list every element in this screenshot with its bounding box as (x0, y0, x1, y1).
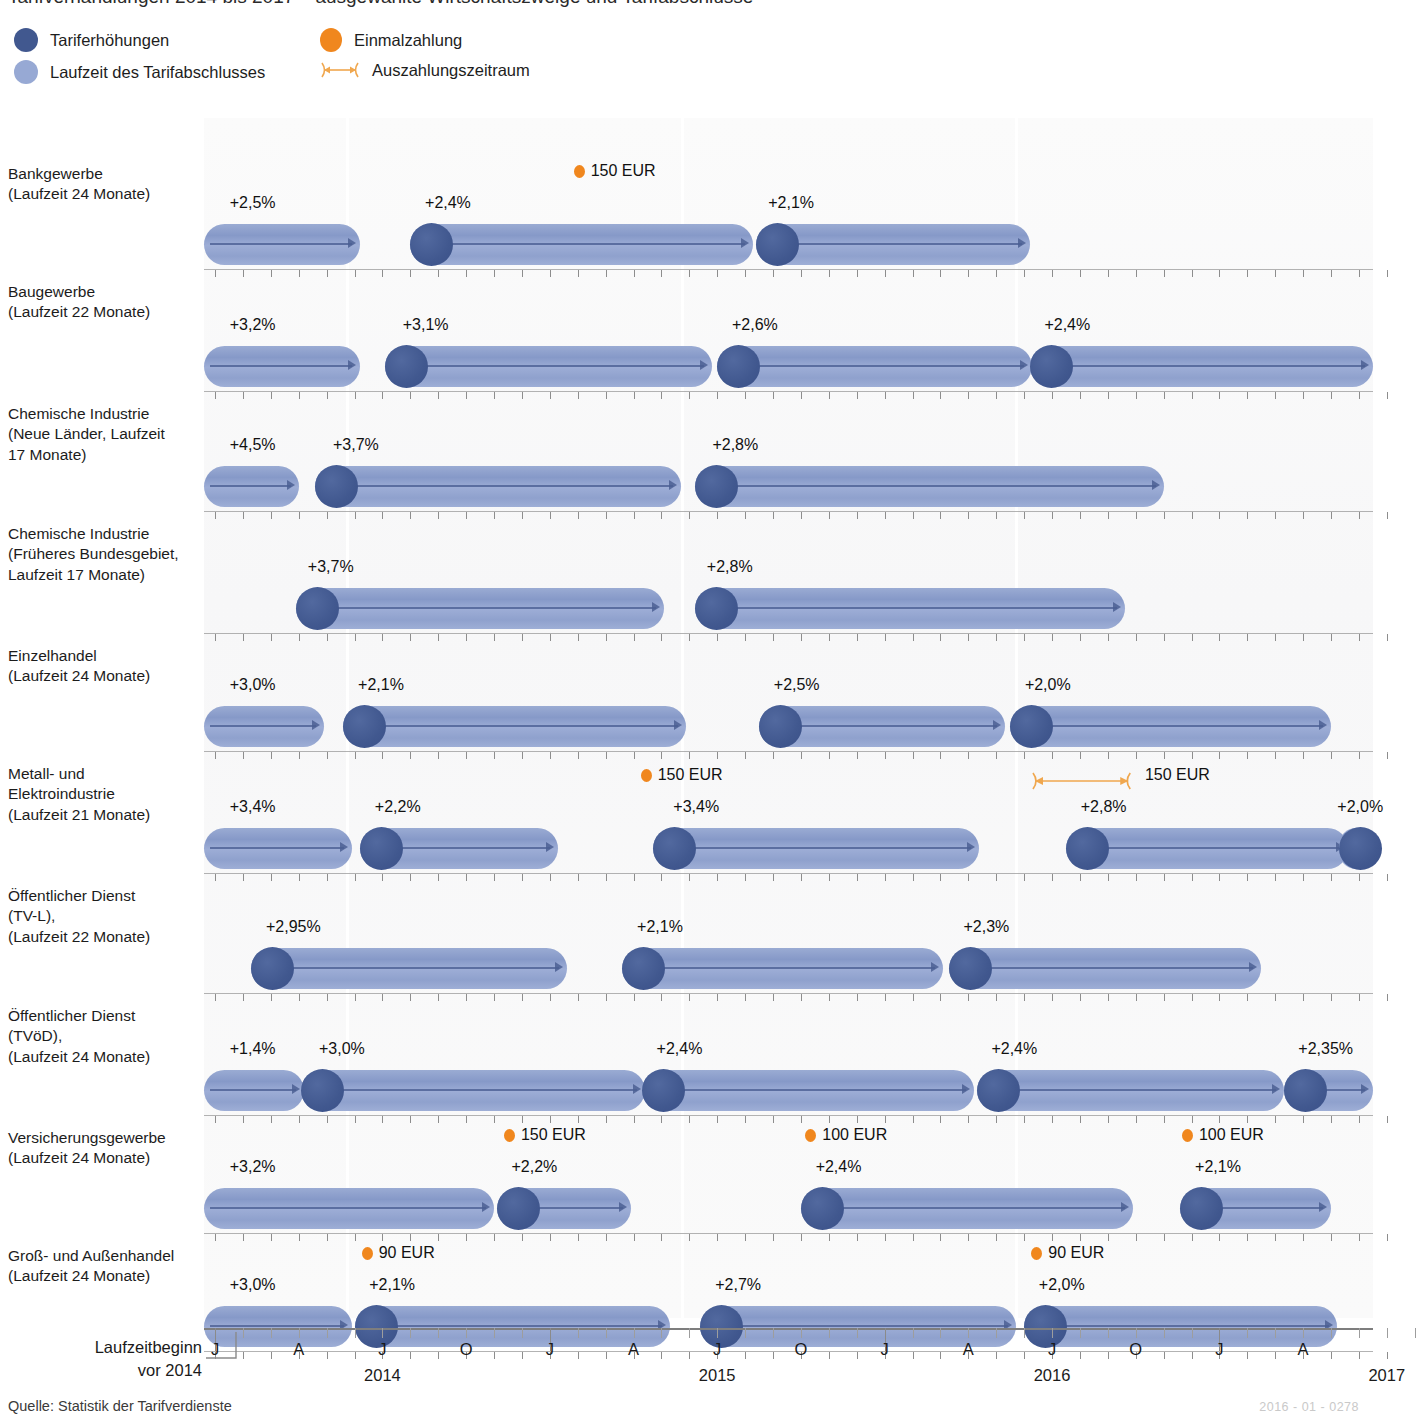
duration-bar[interactable] (717, 346, 1032, 387)
axis-month-tick (299, 1328, 300, 1338)
tarif-increase-marker[interactable] (977, 1069, 1020, 1112)
axis-month-tick (996, 1328, 997, 1338)
axis-line (204, 1328, 1373, 1330)
bar-spine (307, 1089, 636, 1091)
duration-bar[interactable] (204, 706, 324, 747)
tarif-increase-marker[interactable] (642, 1069, 685, 1112)
duration-bar[interactable] (642, 1070, 974, 1111)
row-label-line: Einzelhandel (8, 646, 203, 666)
tarif-increase-marker[interactable] (695, 465, 738, 508)
dark-blue-dot-icon (14, 28, 38, 52)
tarif-increase-marker[interactable] (1284, 1069, 1327, 1112)
bar-end-arrow-icon (482, 1202, 490, 1212)
chart-row-oed-tvoed[interactable]: Öffentlicher Dienst(TVöD),(Laufzeit 24 M… (0, 1000, 1373, 1122)
axis-month-tick (438, 1328, 439, 1338)
increase-percent-label: +2,4% (1044, 316, 1090, 334)
chart-row-chemie-frueheres-bundesgebiet[interactable]: Chemische Industrie(Früheres Bundesgebie… (0, 518, 1373, 640)
axis-month-tick (857, 1328, 858, 1338)
increase-percent-label: +2,8% (712, 436, 758, 454)
axis-month-tick (1387, 1328, 1388, 1338)
increase-percent-label: +2,4% (816, 1158, 862, 1176)
tarif-increase-marker[interactable] (717, 345, 760, 388)
duration-bar[interactable] (977, 1070, 1284, 1111)
bar-end-arrow-icon (674, 720, 682, 730)
duration-bar[interactable] (695, 466, 1164, 507)
tarif-increase-marker[interactable] (410, 223, 453, 266)
duration-bar[interactable] (695, 588, 1125, 629)
row-label-line: (Laufzeit 24 Monate) (8, 184, 203, 204)
increase-percent-label: +3,2% (230, 1158, 276, 1176)
one-time-payment-label: 90 EUR (1031, 1244, 1104, 1262)
row-label-oed-tvl: Öffentlicher Dienst(TV-L),(Laufzeit 22 M… (8, 886, 203, 947)
duration-bar[interactable] (653, 828, 979, 869)
bar-spine (701, 607, 1117, 609)
one-time-payment-label: 150 EUR (1145, 766, 1210, 784)
duration-bar[interactable] (204, 466, 299, 507)
tarif-increase-marker[interactable] (695, 587, 738, 630)
tarif-increase-marker[interactable] (1066, 827, 1109, 870)
chart-row-baugewerbe[interactable]: Baugewerbe(Laufzeit 22 Monate)+3,2%+3,1%… (0, 276, 1373, 398)
orange-dot-icon (362, 1247, 373, 1260)
axis-month-tick (1247, 1328, 1248, 1338)
chart-row-versicherungsgewerbe[interactable]: Versicherungsgewerbe(Laufzeit 24 Monate)… (0, 1122, 1373, 1240)
pre-2014-label-line1: Laufzeitbeginn (72, 1336, 202, 1359)
duration-bar[interactable] (296, 588, 664, 629)
duration-bar[interactable] (1010, 706, 1331, 747)
one-time-payment-amount: 90 EUR (379, 1244, 435, 1262)
tarif-increase-marker[interactable] (296, 587, 339, 630)
duration-bar[interactable] (410, 224, 753, 265)
axis-month-tick (689, 1328, 690, 1338)
bar-spine (983, 1089, 1276, 1091)
increase-percent-label: +2,1% (358, 676, 404, 694)
axis-month-tick (1164, 1328, 1165, 1338)
duration-bar[interactable] (801, 1188, 1133, 1229)
duration-bar[interactable] (343, 706, 686, 747)
tarif-increase-marker[interactable] (251, 947, 294, 990)
increase-percent-label: +2,1% (1195, 1158, 1241, 1176)
tarif-increase-marker[interactable] (801, 1187, 844, 1230)
axis-month-label: J (546, 1340, 554, 1359)
tarif-increase-marker[interactable] (385, 345, 428, 388)
duration-bar[interactable] (385, 346, 711, 387)
duration-bar[interactable] (949, 948, 1261, 989)
duration-bar[interactable] (204, 224, 360, 265)
duration-bar[interactable] (301, 1070, 644, 1111)
axis-month-label: J (378, 1340, 386, 1359)
duration-bar[interactable] (204, 828, 352, 869)
bar-end-arrow-icon (669, 480, 677, 490)
tarif-increase-marker[interactable] (759, 705, 802, 748)
duration-bar[interactable] (1030, 346, 1373, 387)
row-label-gross-aussenhandel: Groß- und Außenhandel(Laufzeit 24 Monate… (8, 1246, 203, 1287)
duration-bar[interactable] (204, 346, 360, 387)
tarif-increase-marker[interactable] (1010, 705, 1053, 748)
chart-row-einzelhandel[interactable]: Einzelhandel(Laufzeit 24 Monate)+3,0%+2,… (0, 640, 1373, 758)
chart-row-oed-tvl[interactable]: Öffentlicher Dienst(TV-L),(Laufzeit 22 M… (0, 880, 1373, 1000)
row-label-line: (Laufzeit 22 Monate) (8, 927, 203, 947)
duration-bar[interactable] (622, 948, 943, 989)
duration-bar[interactable] (204, 1070, 304, 1111)
axis-month-label: A (963, 1340, 974, 1359)
tarif-increase-marker[interactable] (756, 223, 799, 266)
chart-row-bankgewerbe[interactable]: Bankgewerbe(Laufzeit 24 Monate)150 EUR+2… (0, 158, 1373, 276)
tarif-increase-marker[interactable] (360, 827, 403, 870)
axis-month-tick (494, 1328, 495, 1338)
legend-item-auszahlungszeitraum: Auszahlungszeitraum (320, 60, 530, 80)
axis-month-tick (1080, 1328, 1081, 1338)
axis-month-label: A (1298, 1340, 1309, 1359)
duration-bar[interactable] (315, 466, 680, 507)
chart-row-metall-elektro[interactable]: Metall- undElektroindustrie(Laufzeit 21 … (0, 758, 1373, 880)
duration-bar[interactable] (251, 948, 566, 989)
tarif-increase-marker[interactable] (653, 827, 696, 870)
tarif-increase-marker[interactable] (497, 1187, 540, 1230)
chart-row-chemie-neue-laender[interactable]: Chemische Industrie(Neue Länder, Laufzei… (0, 398, 1373, 518)
axis-month-tick (661, 1328, 662, 1338)
axis-month-tick (1052, 1328, 1053, 1338)
axis-year-label: 2014 (364, 1366, 401, 1385)
one-time-payment-label: 100 EUR (1182, 1126, 1264, 1144)
one-time-payment-amount: 90 EUR (1048, 1244, 1104, 1262)
orange-dot-icon (1031, 1247, 1042, 1260)
tarif-increase-marker[interactable] (1030, 345, 1073, 388)
tarif-increase-marker[interactable] (949, 947, 992, 990)
tarif-increase-marker[interactable] (1339, 827, 1382, 870)
duration-bar[interactable] (204, 1188, 494, 1229)
